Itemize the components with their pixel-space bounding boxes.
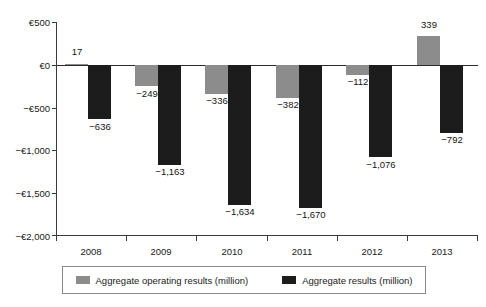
x-axis-label-2011: 2011 [272,246,332,257]
legend-label-operating-results: Aggregate operating results (million) [96,275,249,286]
y-axis-tick-label-n1500: −€1,500 [0,188,50,199]
y-tick-mark-n1500 [52,193,57,194]
bar-chart: €500 €0 −€500 −€1,000 −€1,500 −€2,000 20… [0,0,486,307]
x-axis-label-2013: 2013 [412,246,472,257]
bar-value-aggregate-2010: −1,634 [212,206,268,217]
legend-item-operating-results: Aggregate operating results (million) [76,275,249,286]
bar-value-aggregate-2012: −1,076 [353,159,409,170]
chart-legend: Aggregate operating results (million) Ag… [62,266,426,294]
y-axis-tick-label-n2000: −€2,000 [0,231,50,242]
bar-operating-2009 [135,65,158,86]
legend-label-aggregate-results: Aggregate results (million) [302,275,412,286]
x-axis-label-2009: 2009 [131,246,191,257]
x-tick-mark-2 [196,236,197,241]
bar-operating-2011 [276,65,299,98]
y-axis-tick-label-n500: −€500 [0,103,50,114]
bar-aggregate-2010 [228,65,251,205]
bar-value-aggregate-2011: −1,670 [283,209,339,220]
bar-operating-2010 [205,65,228,94]
x-axis-label-2008: 2008 [61,246,121,257]
y-tick-mark-n500 [52,108,57,109]
zero-baseline [56,65,478,66]
y-tick-mark-0 [52,65,57,66]
bar-value-operating-2010: −336 [189,95,245,106]
x-axis-label-2010: 2010 [202,246,262,257]
y-axis-tick-label-500: €500 [0,17,50,28]
plot-area: 2008 2009 2010 2011 2012 2013 17 −636 −2… [56,22,478,236]
bar-value-aggregate-2008: −636 [72,121,128,132]
bar-value-operating-2012: −112 [330,76,386,87]
bar-value-aggregate-2009: −1,163 [142,166,198,177]
x-axis-label-2012: 2012 [342,246,402,257]
bar-value-operating-2013: 339 [401,19,457,30]
bar-aggregate-2009 [158,65,181,165]
legend-swatch-black-icon [282,276,296,284]
bar-operating-2013 [417,36,440,65]
x-tick-mark-5 [407,236,408,241]
bar-aggregate-2013 [440,65,463,133]
bar-operating-2008 [65,64,88,66]
bar-aggregate-2011 [299,65,322,208]
bar-value-operating-2009: −249 [119,88,175,99]
x-tick-mark-3 [267,236,268,241]
x-tick-mark-4 [337,236,338,241]
y-axis-tick-label-n1000: −€1,000 [0,145,50,156]
y-tick-mark-n1000 [52,150,57,151]
x-tick-mark-1 [126,236,127,241]
y-tick-mark-500 [52,22,57,23]
y-axis-tick-label-0: €0 [0,60,50,71]
bar-value-operating-2011: −382 [260,99,316,110]
bar-value-operating-2008: 17 [49,46,105,57]
bar-operating-2012 [346,65,369,75]
x-tick-mark-6 [477,236,478,241]
bar-aggregate-2008 [88,65,111,119]
bar-value-aggregate-2013: −792 [424,134,480,145]
legend-item-aggregate-results: Aggregate results (million) [282,275,412,286]
x-tick-mark-0 [56,236,57,241]
legend-swatch-gray-icon [76,276,90,284]
